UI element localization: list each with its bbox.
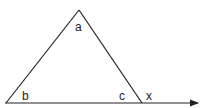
label-b: b xyxy=(22,89,29,103)
label-c: c xyxy=(119,89,125,103)
triangle-diagram: a b c x xyxy=(0,0,200,108)
label-x: x xyxy=(146,89,152,103)
left-side xyxy=(6,10,79,103)
right-side xyxy=(79,10,142,103)
label-a: a xyxy=(75,20,82,34)
